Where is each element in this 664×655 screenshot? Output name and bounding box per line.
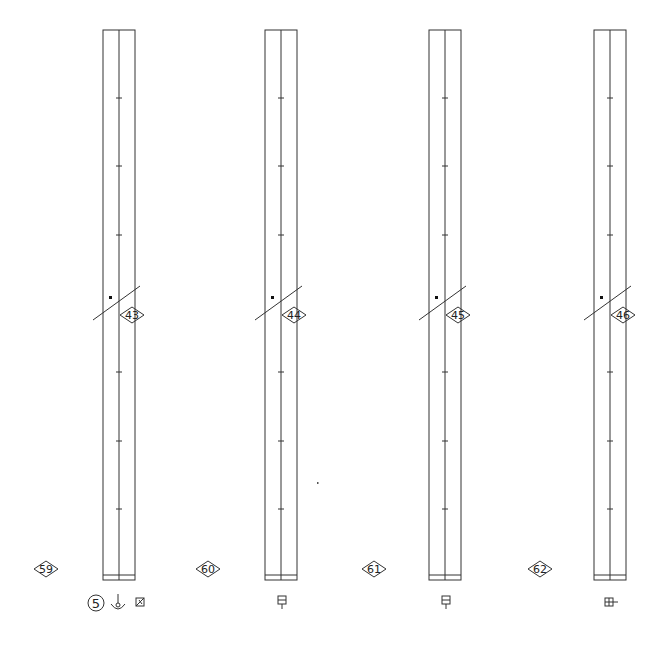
svg-text:59: 59 [39,563,53,576]
drawing-canvas: 43594460456146625 [0,0,664,655]
svg-text:45: 45 [451,309,465,322]
svg-text:44: 44 [287,309,301,322]
column-2: 4460 [196,30,306,580]
weld-symbol-icon [111,594,125,609]
marker-dot [109,296,112,299]
box-tee-icon [442,596,450,609]
grid-tag-60: 60 [196,561,220,577]
svg-text:5: 5 [92,596,100,611]
column-3: 4561 [362,30,470,580]
grid-tag-61: 61 [362,561,386,577]
section-tag-46: 46 [611,307,635,323]
svg-text:61: 61 [367,563,381,576]
svg-text:43: 43 [125,309,139,322]
box-tee-icon [278,596,286,609]
grid-tag-59: 59 [34,561,58,577]
column-1: 4359 [34,30,144,580]
section-tag-44: 44 [282,307,306,323]
marker-dot [435,296,438,299]
grid-tag-62: 62 [528,561,552,577]
box-tee-right-icon [605,598,618,606]
svg-text:46: 46 [616,309,630,322]
section-tag-43: 43 [120,307,144,323]
stray-mark [317,482,319,484]
column-4: 4662 [528,30,635,580]
svg-text:62: 62 [533,563,547,576]
svg-text:60: 60 [201,563,215,576]
section-tag-45: 45 [446,307,470,323]
column-1-callouts: 5 [88,594,144,611]
marker-dot [271,296,274,299]
marker-dot [600,296,603,299]
flag-symbol-icon [136,598,144,606]
